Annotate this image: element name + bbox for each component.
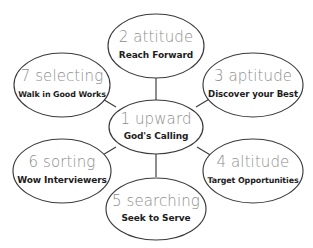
node-1-upward-title: 1 upward: [120, 110, 191, 128]
node-6-sorting-subtitle: Wow Interviewers: [17, 175, 107, 185]
node-7-selecting-subtitle: Walk in Good Works: [18, 90, 106, 99]
node-6-sorting[interactable]: 6 sorting Wow Interviewers: [13, 139, 111, 203]
node-6-sorting-title: 6 sorting: [29, 153, 96, 171]
node-4-altitude-title: 4 altitude: [217, 153, 290, 171]
node-3-aptitude-title: 3 aptitude: [214, 67, 292, 85]
node-5-searching-subtitle: Seek to Serve: [121, 213, 190, 223]
node-1-upward-subtitle: God's Calling: [124, 131, 189, 141]
node-2-attitude-subtitle: Reach Forward: [119, 50, 193, 60]
node-5-searching[interactable]: 5 searching Seek to Serve: [106, 178, 206, 240]
node-7-selecting-title: 7 selecting: [21, 67, 104, 85]
node-3-aptitude-subtitle: Discover your Best: [208, 89, 298, 99]
node-7-selecting-ellipse: [14, 53, 110, 117]
node-2-attitude-title: 2 attitude: [119, 28, 194, 46]
node-5-searching-title: 5 searching: [112, 192, 200, 210]
node-1-upward[interactable]: 1 upward God's Calling: [109, 100, 203, 154]
node-2-attitude[interactable]: 2 attitude Reach Forward: [108, 14, 204, 78]
node-6-sorting-ellipse: [13, 139, 111, 203]
node-3-aptitude-ellipse: [203, 53, 303, 117]
node-4-altitude-subtitle: Target Opportunities: [207, 176, 299, 185]
node-3-aptitude[interactable]: 3 aptitude Discover your Best: [203, 53, 303, 117]
node-2-attitude-ellipse: [108, 14, 204, 78]
node-4-altitude[interactable]: 4 altitude Target Opportunities: [203, 139, 303, 203]
diagram-root: 2 attitude Reach Forward 3 aptitude Disc…: [0, 0, 313, 248]
diagram-canvas: 2 attitude Reach Forward 3 aptitude Disc…: [0, 0, 313, 248]
node-7-selecting[interactable]: 7 selecting Walk in Good Works: [14, 53, 110, 117]
node-4-altitude-ellipse: [203, 139, 303, 203]
